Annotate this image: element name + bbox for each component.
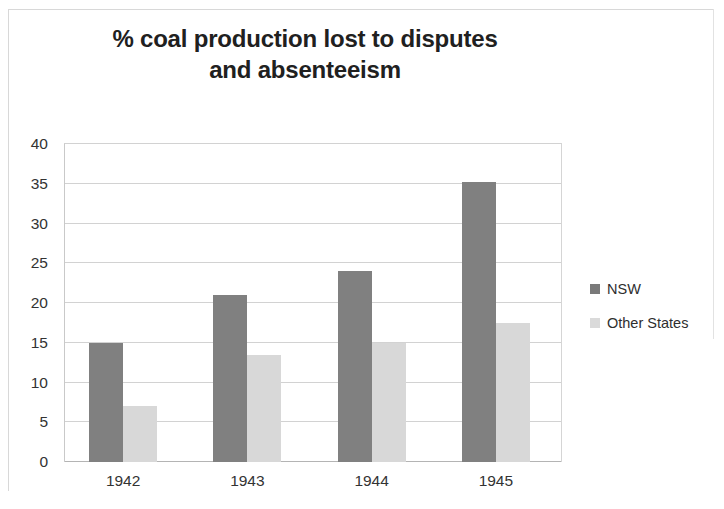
bar-1943-nsw[interactable]: [213, 295, 247, 462]
nsw-swatch-icon: [590, 284, 600, 294]
y-tick-label-15: 15: [0, 334, 56, 352]
bar-1945-other-states[interactable]: [496, 323, 530, 462]
other-states-swatch-icon: [590, 318, 600, 328]
y-tick-label-25: 25: [0, 254, 56, 272]
chart-legend: NSW Other States: [590, 281, 720, 349]
chart-page: % coal production lost to disputes and a…: [0, 0, 724, 509]
x-tick-label-1944: 1944: [354, 472, 388, 490]
y-tick-label-5: 5: [0, 413, 56, 431]
x-tick-label-1943: 1943: [230, 472, 264, 490]
y-tick-label-30: 30: [0, 215, 56, 233]
y-tick-label-35: 35: [0, 175, 56, 193]
bar-1943-other-states[interactable]: [247, 355, 281, 462]
legend-item-nsw[interactable]: NSW: [590, 281, 720, 297]
bar-series-container: [65, 143, 562, 462]
x-axis-tick-labels: 1942194319441945: [65, 472, 562, 502]
plot-wrapper: 0510152025303540 1942194319441945: [0, 0, 724, 509]
bar-1945-nsw[interactable]: [462, 182, 496, 462]
y-tick-label-10: 10: [0, 374, 56, 392]
x-tick-label-1942: 1942: [106, 472, 140, 490]
y-tick-label-40: 40: [0, 135, 56, 153]
x-tick-label-1945: 1945: [479, 472, 513, 490]
legend-label-nsw: NSW: [607, 281, 641, 297]
legend-item-other-states[interactable]: Other States: [590, 315, 720, 331]
y-tick-label-20: 20: [0, 294, 56, 312]
bar-1944-other-states[interactable]: [372, 343, 406, 462]
y-tick-label-0: 0: [0, 453, 56, 471]
bar-1944-nsw[interactable]: [338, 271, 372, 462]
y-axis-tick-labels: 0510152025303540: [0, 143, 56, 462]
bar-1942-nsw[interactable]: [89, 343, 123, 462]
legend-label-other-states: Other States: [607, 315, 688, 331]
bar-1942-other-states[interactable]: [123, 406, 157, 462]
